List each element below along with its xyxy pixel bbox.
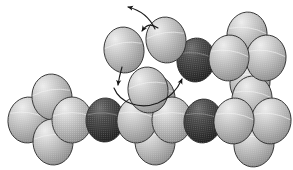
sphere-texture [101,24,147,75]
reacting-sphere-left [101,24,147,75]
molecule-canvas: curved arrow pointing up and to the left… [0,0,293,170]
molecular-model-figure: curved arrow pointing up and to the left… [0,0,293,170]
atoms-layer [5,9,293,169]
